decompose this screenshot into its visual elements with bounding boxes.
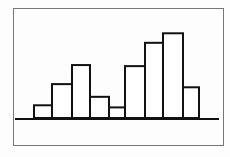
bars-group <box>34 33 199 118</box>
bar-1 <box>34 105 52 118</box>
bar-7 <box>145 43 163 118</box>
bar-8 <box>163 33 183 118</box>
bar-4 <box>90 97 109 118</box>
bar-9 <box>183 87 199 118</box>
chart-frame <box>14 9 224 146</box>
bar-3 <box>72 65 90 118</box>
bar-2 <box>52 84 72 118</box>
histogram-chart <box>0 0 230 157</box>
bar-6 <box>125 66 145 118</box>
bar-5 <box>109 107 125 118</box>
